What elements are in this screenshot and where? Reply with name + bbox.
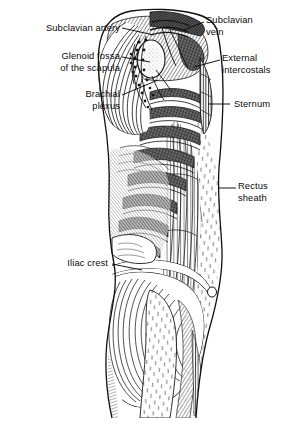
label-sternum: Sternum (234, 98, 294, 110)
sternum-region (200, 58, 212, 134)
label-subclavian-vein: Subclavian vein (206, 14, 292, 37)
label-brachial-plexus: Brachial plexus (30, 88, 120, 111)
label-external-intercostals: External intercostals (222, 52, 294, 75)
label-iliac-crest: Iliac crest (34, 257, 108, 269)
label-glenoid-fossa: Glenoid fossa of the scapula (10, 50, 120, 73)
label-subclavian-artery: Subclavian artery (14, 22, 120, 34)
label-rectus-sheath: Rectus sheath (238, 180, 294, 203)
